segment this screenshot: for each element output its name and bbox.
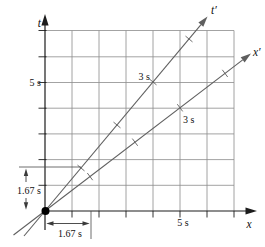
spacetime-diagram: t t′ x x′ 5 s 5 s 3 s 3 s 1.67 s 1.67 s	[0, 0, 265, 247]
t-prime-axis-label: t′	[211, 4, 217, 16]
x-axis-label: x	[245, 218, 252, 230]
x-axis-5s-label: 5 s	[177, 217, 189, 228]
x-prime-axis	[14, 54, 252, 236]
x-prime-3s-label: 3 s	[183, 114, 195, 125]
horizontal-dim-arrow-left	[46, 221, 53, 225]
vertical-dim-arrow-down	[24, 202, 28, 210]
t-axis	[39, 14, 49, 230]
t-axis-5s-label: 5 s	[30, 77, 42, 88]
t-prime-3s-label: 3 s	[139, 71, 151, 82]
horizontal-dim-label: 1.67 s	[58, 228, 82, 239]
t-axis-arrowhead	[41, 14, 48, 26]
origin-dot	[42, 207, 50, 215]
x-prime-axis-label: x′	[252, 46, 261, 58]
x-prime-arrowhead	[241, 54, 251, 63]
x-axis	[45, 207, 257, 217]
t-prime-arrowhead	[198, 17, 207, 27]
x-axis-ticks	[72, 211, 234, 218]
x-axis-arrowhead	[246, 207, 258, 214]
horizontal-dim-arrow-right	[83, 221, 90, 225]
vertical-dim-label: 1.67 s	[17, 185, 41, 196]
vertical-dim-arrow-up	[24, 169, 28, 177]
t-axis-label: t	[38, 17, 42, 29]
grid	[45, 31, 234, 212]
